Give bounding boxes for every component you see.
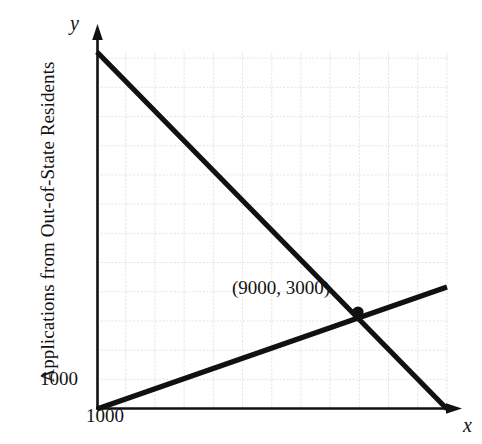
x-axis-letter: x (463, 414, 472, 437)
intersection-annotation: (9000, 3000) (232, 277, 330, 299)
intersection-point (352, 306, 363, 317)
chart-figure: Applications from Out-of-State Residents… (0, 0, 482, 444)
y-axis-letter: y (70, 12, 79, 35)
y-axis-tick-label-1000: 1000 (40, 368, 78, 390)
x-axis-tick-label-1000: 1000 (86, 405, 124, 427)
y-axis-title: Applications from Out-of-State Residents (35, 17, 61, 427)
